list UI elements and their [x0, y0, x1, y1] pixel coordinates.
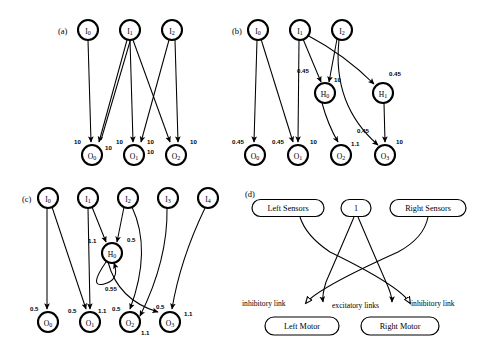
box-label: 1 — [354, 204, 358, 213]
box-right-motor: Right Motor — [361, 317, 439, 335]
edge-i2-h0 — [117, 207, 124, 242]
weight-label: 0.5 — [112, 305, 121, 312]
edge-i2-o2 — [130, 207, 142, 309]
panel-c-edges — [47, 207, 205, 316]
panel-a: (a) I0 I1 I2 O0 — [58, 20, 197, 165]
excitatory-links-label: excitatory links — [332, 301, 379, 310]
node-i2: I2 — [332, 20, 352, 40]
weight-label: 0.5 — [156, 303, 165, 310]
weight-label: 10 — [396, 138, 403, 145]
node-o2: O2 — [166, 145, 186, 165]
edge-i0-o1 — [261, 39, 293, 142]
panel-c-caption: (c) — [22, 194, 32, 204]
weight-label: 10 — [74, 138, 81, 145]
node-i3: I3 — [158, 188, 178, 208]
edge-i2-o2 — [175, 40, 178, 142]
weight-label: 10 — [116, 138, 123, 145]
edge-h0-o2 — [322, 103, 338, 142]
node-i1: I1 — [290, 20, 310, 40]
node-o0: O0 — [82, 145, 102, 165]
panel-b-weights: 0.45 10 0.45 0.45 0.45 10 1.1 0.45 10 — [232, 67, 403, 147]
node-o1: O1 — [80, 312, 100, 332]
edge-i1-o1 — [88, 208, 90, 309]
box-label: Right Motor — [380, 322, 421, 331]
weight-label: 10 — [105, 144, 112, 151]
node-o0: O0 — [38, 312, 58, 332]
edge-h0-self-loop — [96, 262, 115, 285]
node-o2: O2 — [120, 312, 140, 332]
weight-label: 1.1 — [184, 310, 193, 317]
node-o0: O0 — [245, 145, 265, 165]
node-h0: H0 — [315, 83, 335, 103]
node-i0: I0 — [78, 20, 98, 40]
weight-label: 0.45 — [232, 138, 244, 145]
panel-b-caption: (b) — [232, 26, 242, 36]
node-o1: O1 — [288, 145, 308, 165]
box-label: Left Motor — [284, 322, 320, 331]
node-o2: O2 — [331, 145, 351, 165]
network-diagrams-figure: (a) I0 I1 I2 O0 — [0, 0, 480, 347]
node-o1: O1 — [124, 145, 144, 165]
panel-b: (b) I0 I1 I2 — [232, 20, 403, 165]
edge-i4-o3 — [172, 208, 205, 309]
weight-label: 10 — [147, 138, 154, 145]
box-label: Left Sensors — [267, 204, 308, 213]
node-i1: I1 — [120, 20, 140, 40]
weight-label: 1.1 — [141, 329, 150, 336]
edge-i0-o0 — [254, 40, 257, 142]
inhibitory-link-right-label: inhibitory link — [411, 299, 455, 308]
panel-c: (c) I0 I1 I2 — [22, 188, 218, 336]
figure-container: (a) I0 I1 I2 O0 — [0, 0, 480, 347]
node-i1: I1 — [78, 188, 98, 208]
weight-label: 0.55 — [105, 285, 117, 292]
weight-label: 1.1 — [351, 140, 360, 147]
edge-i3-o2 — [140, 208, 167, 316]
panel-a-caption: (a) — [58, 26, 68, 36]
edge-i1-o1 — [298, 40, 299, 142]
box-label: Right Sensors — [405, 204, 451, 213]
edge-i1-h0 — [303, 39, 321, 82]
node-h1: H1 — [373, 83, 393, 103]
weight-label: 10 — [310, 138, 317, 145]
weight-label: 0.5 — [127, 236, 136, 243]
edge-h1-o3 — [384, 103, 385, 142]
weight-label: 10 — [190, 138, 197, 145]
box-bias: 1 — [341, 200, 371, 217]
weight-label: 1.1 — [88, 237, 97, 244]
weight-label: 0.45 — [297, 67, 309, 74]
box-left-motor: Left Motor — [265, 317, 339, 335]
weight-label: 0.5 — [68, 307, 77, 314]
node-h0: H0 — [102, 243, 122, 263]
panel-d: (d) Left Sensors 1 Right Sensors Left Mo… — [242, 189, 466, 335]
weight-label: 0.45 — [272, 138, 284, 145]
edge-i0-o0 — [88, 40, 91, 142]
edge-o0-i1-return — [101, 38, 131, 140]
edge-i1-o0 — [99, 40, 127, 142]
node-i0: I0 — [248, 20, 268, 40]
node-i2: I2 — [162, 20, 182, 40]
node-o3: O3 — [375, 145, 395, 165]
node-i2: I2 — [118, 188, 138, 208]
inhibitory-link-left-label: inhibitory link — [242, 299, 286, 308]
weight-label: 10 — [147, 148, 154, 155]
panel-a-edges — [88, 38, 178, 142]
node-i0: I0 — [38, 188, 58, 208]
edge-i0-o1 — [52, 207, 86, 309]
link-left-sensors-to-right-motor — [300, 217, 410, 303]
panel-d-caption: (d) — [245, 189, 255, 199]
link-bias-to-right-motor — [358, 217, 392, 302]
weight-label: 0.45 — [357, 127, 369, 134]
box-left-sensors: Left Sensors — [252, 200, 324, 217]
node-i4: I4 — [198, 188, 218, 208]
link-bias-to-left-motor — [323, 217, 354, 302]
weight-label: 0.5 — [30, 305, 39, 312]
edge-i1-o1 — [130, 40, 133, 142]
weight-label: 1.1 — [98, 307, 107, 314]
panel-d-notes: inhibitory link excitatory links inhibit… — [242, 299, 455, 310]
weight-label: 0.45 — [389, 70, 401, 77]
node-o3: O3 — [160, 312, 180, 332]
panel-d-links — [300, 217, 428, 303]
box-right-sensors: Right Sensors — [390, 200, 466, 217]
weight-label: 10 — [334, 76, 341, 83]
